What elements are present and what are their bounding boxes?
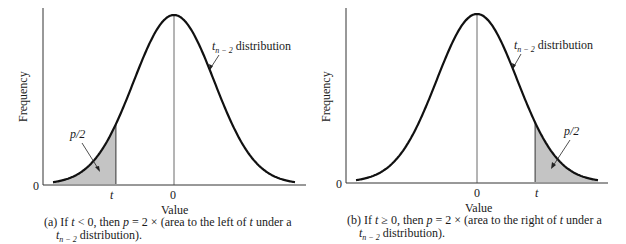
distribution-label: tn − 2distribution — [514, 38, 593, 54]
caption-a: (a) If t < 0, then p = 2 × (area to the … — [44, 216, 314, 244]
caption-b: (b) If t ≥ 0, then p = 2 × (area to the … — [347, 214, 622, 244]
panel-a: 0 t 0 Value Frequency tn − 2distribution… — [16, 8, 306, 217]
x-tick-t: t — [535, 186, 539, 200]
y-axis-label: Frequency — [319, 71, 333, 122]
p-half-label: p/2 — [563, 124, 579, 138]
panel-b: 0 0 t Value Frequency tn − 2distribution… — [319, 8, 608, 215]
x-tick-zero: 0 — [474, 186, 480, 200]
y-tick-zero: 0 — [336, 177, 342, 191]
x-tick-zero: 0 — [170, 188, 176, 202]
y-tick-zero: 0 — [33, 179, 39, 193]
caption-condition: < 0, then — [78, 215, 120, 229]
x-tick-t: t — [110, 188, 114, 202]
p-half-label: p/2 — [69, 127, 85, 141]
y-axis-label: Frequency — [16, 71, 30, 122]
figure: 0 t 0 Value Frequency tn − 2distribution… — [0, 0, 626, 244]
caption-condition: ≥ 0, then — [381, 213, 423, 227]
distribution-label: tn − 2distribution — [212, 39, 291, 55]
